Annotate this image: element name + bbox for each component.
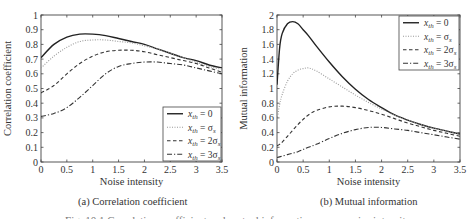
series-line <box>41 50 222 93</box>
y-tick-label: 0.2 <box>26 127 39 138</box>
y-tick-label: 2 <box>269 10 274 21</box>
subcaption-a: (a) Correlation coefficient <box>78 196 187 207</box>
y-tick-label: 1 <box>33 10 38 21</box>
y-tick-label: 0.2 <box>262 142 275 153</box>
y-tick-label: 0.4 <box>262 127 275 138</box>
series-line <box>41 40 222 70</box>
x-tick-label: 3 <box>194 164 199 175</box>
x-tick-label: 3 <box>431 164 436 175</box>
x-axis-label: Noise intensity <box>337 176 401 187</box>
y-tick-label: 1.8 <box>262 24 275 35</box>
legend: xth = 0xth = σsxth = 2σsxth = 3σs <box>163 107 221 162</box>
y-tick-label: 0.5 <box>26 83 39 94</box>
y-tick-label: 0 <box>269 157 274 168</box>
x-tick-label: 3.5 <box>454 164 467 175</box>
y-tick-label: 0.9 <box>26 24 39 35</box>
y-axis-label: Correlation coefficient <box>2 41 13 136</box>
x-tick-label: 2.5 <box>401 164 414 175</box>
y-tick-label: 0.8 <box>26 39 39 50</box>
series-line <box>277 127 460 157</box>
x-tick-label: 3.5 <box>216 164 229 175</box>
x-axis-label: Noise intensity <box>100 176 164 187</box>
y-tick-label: 1.2 <box>262 68 275 79</box>
y-tick-label: 0.3 <box>26 112 39 123</box>
y-tick-label: 0 <box>33 157 38 168</box>
y-tick-label: 1 <box>269 83 274 94</box>
subcaption-b: (b) Mutual information <box>320 196 417 207</box>
series-line <box>277 68 460 134</box>
x-tick-label: 0 <box>39 164 44 175</box>
series-line <box>277 106 460 146</box>
y-axis-label: Mutual information <box>238 46 249 129</box>
x-tick-label: 0 <box>275 164 280 175</box>
figure-caption-text: Fig. 10.1 Correlation coefficient and mu… <box>65 212 411 219</box>
x-tick-label: 1.5 <box>349 164 362 175</box>
chart-correlation-coefficient: 00.511.522.533.500.10.20.30.40.50.60.70.… <box>0 0 238 196</box>
y-tick-label: 0.1 <box>26 142 39 153</box>
y-tick-label: 1.4 <box>262 54 275 65</box>
x-tick-label: 1 <box>327 164 332 175</box>
series-line <box>41 34 222 68</box>
y-tick-label: 0.7 <box>26 54 39 65</box>
x-tick-label: 1.5 <box>112 164 125 175</box>
figure-caption: Fig. 10.1 Correlation coefficient and mu… <box>0 212 476 219</box>
y-tick-label: 0.6 <box>262 112 275 123</box>
x-tick-label: 2 <box>142 164 147 175</box>
x-tick-label: 1 <box>90 164 95 175</box>
y-tick-label: 0.8 <box>262 98 275 109</box>
y-tick-label: 1.6 <box>262 39 275 50</box>
x-tick-label: 2.5 <box>164 164 177 175</box>
x-tick-label: 0.5 <box>61 164 74 175</box>
x-tick-label: 0.5 <box>297 164 310 175</box>
legend: xth = 0xth = σsxth = 2σsxth = 3σs <box>399 16 459 71</box>
y-tick-label: 0.4 <box>26 98 39 109</box>
chart-mutual-information: 00.511.522.533.500.20.40.60.811.21.41.61… <box>236 0 474 196</box>
y-tick-label: 0.6 <box>26 68 39 79</box>
x-tick-label: 2 <box>379 164 384 175</box>
